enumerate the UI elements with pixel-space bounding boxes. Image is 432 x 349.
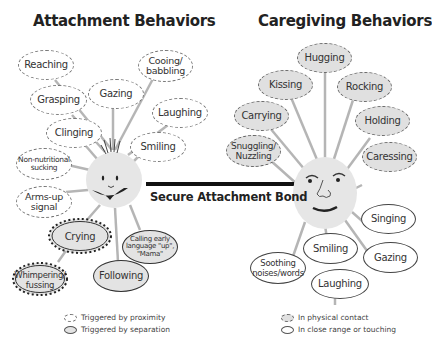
legend-swatch-shaded: [64, 326, 77, 334]
node-kissing: Kissing: [258, 70, 313, 100]
legend-swatch-shaded-dashed: [281, 314, 294, 322]
node-smiling-caregiver: Smiling: [303, 233, 358, 264]
node-gazing: Gazing: [88, 79, 144, 109]
node-non-nutritional-sucking: Non-nutritional sucking: [16, 148, 72, 180]
legend-physical-contact: In physical contact: [281, 313, 369, 322]
node-rocking: Rocking: [337, 72, 392, 102]
node-grasping: Grasping: [30, 85, 87, 115]
node-clinging: Clinging: [46, 118, 102, 148]
node-calling-early-language: Calling early language "up", "Mama": [122, 230, 178, 264]
legend-label: In close range or touching: [298, 325, 396, 334]
attachment-title: Attachment Behaviors: [33, 12, 215, 30]
legend-label: In physical contact: [298, 313, 369, 322]
node-carrying: Carrying: [234, 101, 289, 131]
legend-label: Triggered by proximity: [81, 313, 165, 322]
legend-label: Triggered by separation: [81, 325, 170, 334]
legend-separation: Triggered by separation: [64, 325, 170, 334]
node-arms-up-signal: Arms-up signal: [16, 186, 72, 218]
legend-proximity: Triggered by proximity: [64, 313, 165, 322]
node-gazing-caregiver: Gazing: [363, 242, 418, 273]
node-hugging: Hugging: [297, 43, 352, 73]
bond-label: Secure Attachment Bond: [150, 190, 307, 204]
caregiving-title: Caregiving Behaviors: [258, 12, 432, 30]
legend-swatch-dashed: [64, 314, 77, 322]
node-following: Following: [93, 260, 149, 292]
node-cooing-babbling: Cooing/ babbling: [138, 50, 193, 82]
legend-swatch-white: [281, 326, 294, 334]
node-reaching: Reaching: [18, 50, 74, 80]
node-holding: Holding: [355, 106, 410, 136]
node-laughing-infant: Laughing: [152, 98, 208, 128]
bond-bar: [146, 182, 294, 186]
node-crying: Crying: [52, 222, 108, 251]
legend-close-range: In close range or touching: [281, 325, 396, 334]
node-laughing-caregiver: Laughing: [311, 269, 369, 299]
node-soothing-noises-words: Soothing noises/words: [250, 252, 306, 284]
node-singing: Singing: [361, 204, 416, 234]
node-caressing: Caressing: [362, 142, 417, 172]
node-whimpering-fussing: Whimpering/ fussing: [14, 265, 66, 294]
node-smiling-infant: Smiling: [130, 132, 186, 162]
node-snuggling-nuzzling: Snuggling/ Nuzzling: [226, 135, 281, 167]
